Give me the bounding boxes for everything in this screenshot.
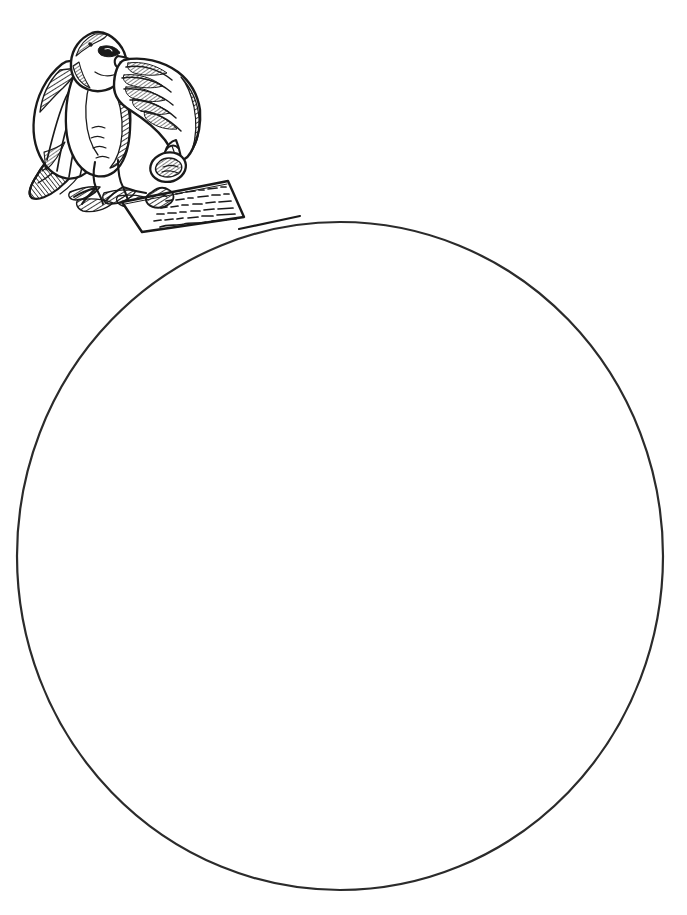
blank-circle-outline (0, 0, 687, 915)
circle-outline-shape (17, 222, 663, 890)
page-canvas: Coloring page: bird stamping a document … (0, 0, 687, 915)
